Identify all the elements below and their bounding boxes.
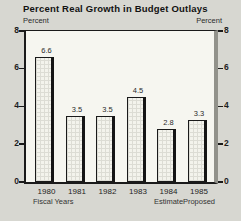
bar [66, 116, 85, 182]
y-tick-mark-right [218, 68, 223, 70]
bar [127, 97, 146, 182]
x-axis-title: Fiscal Years [33, 197, 73, 206]
y-tick-label-right: 4 [224, 101, 239, 110]
y-tick-label-right: 8 [224, 26, 239, 35]
y-tick-label-right: 6 [224, 63, 239, 72]
bar-value-label: 6.6 [32, 46, 62, 55]
bar-value-label: 4.5 [123, 86, 153, 95]
y-tick-mark-right [218, 181, 223, 183]
budget-outlays-chart: Percent Real Growth in Budget Outlays Pe… [0, 0, 241, 221]
y-tick-label-right: 0 [224, 177, 239, 186]
x-tick-label: 1985 [179, 187, 219, 196]
y-tick-mark-left [19, 181, 24, 183]
bar-value-label: 3.5 [93, 105, 123, 114]
y-tick-label-left: 0 [4, 177, 19, 186]
bar [35, 57, 54, 182]
y-tick-mark-left [19, 106, 24, 108]
bar [96, 116, 115, 182]
y-tick-mark-right [218, 106, 223, 108]
chart-title: Percent Real Growth in Budget Outlays [23, 3, 208, 14]
y-tick-label-left: 4 [4, 101, 19, 110]
y-axis-unit-right: Percent [196, 16, 222, 25]
y-tick-mark-right [218, 143, 223, 145]
bar-value-label: 3.3 [184, 109, 214, 118]
y-tick-mark-left [19, 68, 24, 70]
bar-value-label: 2.8 [154, 118, 184, 127]
y-tick-label-left: 8 [4, 26, 19, 35]
bar [157, 129, 176, 182]
x-tick-sublabel: Proposed [173, 197, 225, 206]
bar-value-label: 3.5 [62, 105, 92, 114]
y-tick-mark-left [19, 30, 24, 32]
y-tick-mark-right [218, 30, 223, 32]
y-tick-label-left: 6 [4, 63, 19, 72]
y-axis-unit-left: Percent [23, 16, 49, 25]
y-tick-label-left: 2 [4, 139, 19, 148]
y-tick-label-right: 2 [224, 139, 239, 148]
bar [188, 120, 207, 182]
y-tick-mark-left [19, 143, 24, 145]
